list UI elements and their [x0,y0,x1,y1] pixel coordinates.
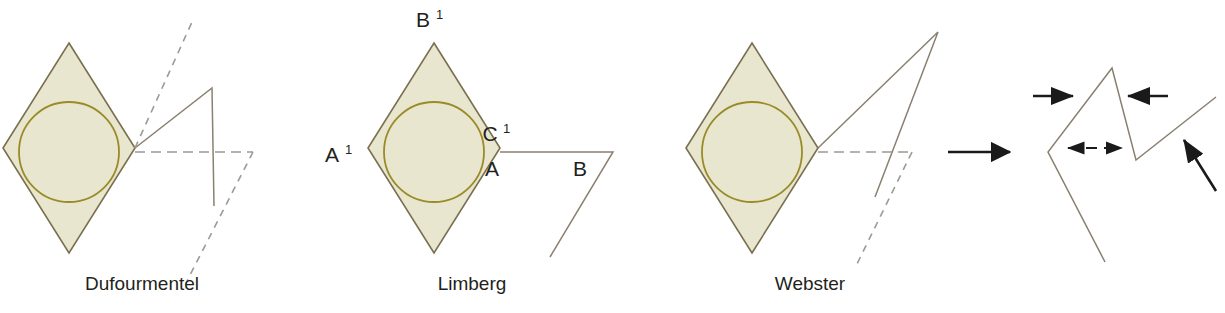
dashed-extension-lower [187,152,253,281]
panel-dufourmentel: Dufourmentel [3,22,253,294]
flap-incision-line [818,32,938,197]
svg-text:A: A [325,143,339,166]
lesion-circle [702,102,802,202]
dashed-extension-lower [856,152,912,266]
closure-arrow-diagonal [1184,140,1216,191]
svg-text:1: 1 [345,142,352,157]
lesion-circle [384,102,484,202]
panel-limberg: B 1 A 1 C 1 A B Limberg [325,7,613,294]
vertex-label-c-prime: C 1 [482,121,510,145]
svg-text:1: 1 [436,7,443,22]
rhomboid-flap-figure: Dufourmentel B 1 A 1 C 1 A B Limberg [0,0,1225,313]
vertex-label-a: A [485,157,499,180]
svg-text:1: 1 [503,121,510,136]
panel-caption-webster: Webster [775,273,846,294]
flap-incision-line [135,88,214,206]
panel-caption-limberg: Limberg [438,273,507,294]
panel-webster: Webster [686,32,938,294]
panel-closure [948,68,1216,262]
vertex-label-b-prime: B 1 [416,7,443,31]
svg-text:C: C [482,122,497,145]
vertex-label-b: B [573,157,587,180]
lesion-circle [19,102,119,202]
figure-canvas: Dufourmentel B 1 A 1 C 1 A B Limberg [0,0,1225,313]
panel-caption-dufourmentel: Dufourmentel [85,273,199,294]
vertex-label-a-prime: A 1 [325,142,352,166]
dashed-extension-upper [135,22,192,148]
flap-incision-line [500,152,613,257]
svg-text:B: B [416,8,430,31]
